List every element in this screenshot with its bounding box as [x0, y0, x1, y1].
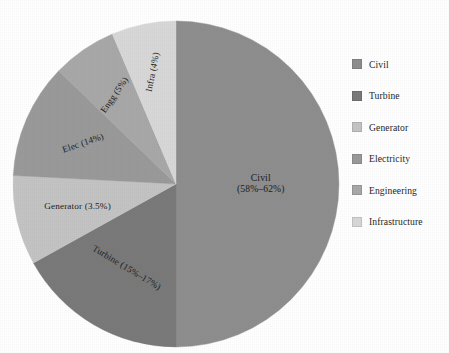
legend-item-label: Infrastructure	[369, 216, 423, 227]
legend-item-label: Civil	[369, 59, 389, 70]
legend-item-label: Engineering	[369, 185, 417, 196]
legend-item-civil[interactable]: Civil	[352, 58, 449, 70]
pie-plot-area: Civil(58%–62%)Turbine (15%–17%)Generator…	[0, 0, 360, 353]
pie-slice-label-civil-name: Civil	[251, 172, 271, 183]
legend-swatch-icon	[352, 217, 362, 227]
legend-item-infrastructure[interactable]: Infrastructure	[352, 216, 449, 228]
pie-slice-label-civil-value: (58%–62%)	[237, 183, 285, 195]
pie-chart-figure: Civil(58%–62%)Turbine (15%–17%)Generator…	[0, 0, 449, 353]
legend-item-label: Electricity	[369, 153, 410, 164]
pie-slice-label-generator: Generator (3.5%)	[44, 201, 111, 211]
legend-item-label: Generator	[369, 122, 408, 133]
legend-swatch-icon	[352, 154, 362, 164]
legend-item-generator[interactable]: Generator	[352, 121, 449, 133]
legend-swatch-icon	[352, 59, 362, 69]
legend-item-electricity[interactable]: Electricity	[352, 153, 449, 165]
legend-swatch-icon	[352, 91, 362, 101]
legend-swatch-icon	[352, 185, 362, 195]
legend-item-engineering[interactable]: Engineering	[352, 184, 449, 196]
legend-item-turbine[interactable]: Turbine	[352, 90, 449, 102]
legend-swatch-icon	[352, 122, 362, 132]
chart-legend: CivilTurbineGeneratorElectricityEngineer…	[352, 58, 449, 248]
legend-item-label: Turbine	[369, 90, 400, 101]
pie-slice-group	[13, 21, 339, 347]
pie-svg: Civil(58%–62%)Turbine (15%–17%)Generator…	[0, 0, 360, 353]
